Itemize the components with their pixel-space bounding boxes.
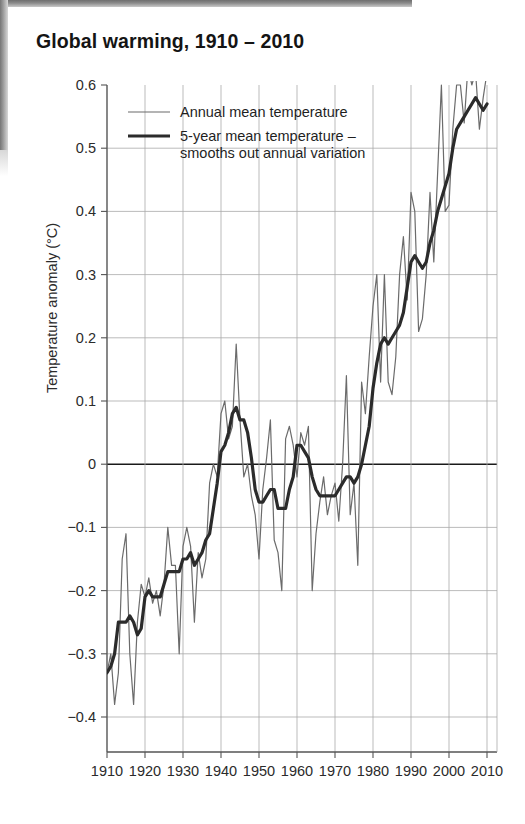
legend-label: Annual mean temperature xyxy=(180,104,348,120)
x-tick-label: 1940 xyxy=(205,763,237,779)
y-tick-label: −0.2 xyxy=(67,583,96,599)
x-tick-label: 1930 xyxy=(167,763,199,779)
grid-layer xyxy=(107,85,497,752)
x-tick-label: 1970 xyxy=(319,763,351,779)
y-tick-label: −0.1 xyxy=(67,519,96,535)
x-tick-label: 1960 xyxy=(281,763,313,779)
y-tick-label: 0.2 xyxy=(76,330,96,346)
page-root: Global warming, 1910 – 2010 Temperature … xyxy=(0,0,525,824)
x-tick-label: 1920 xyxy=(129,763,161,779)
line-chart: 0.60.50.40.30.20.10−0.1−0.2−0.3−0.4 1910… xyxy=(0,0,525,824)
y-tick-label: 0.5 xyxy=(76,140,96,156)
legend-label-line2: smooths out annual variation xyxy=(180,145,365,161)
y-tick-labels: 0.60.50.40.30.20.10−0.1−0.2−0.3−0.4 xyxy=(67,77,96,725)
y-tick-label: 0.1 xyxy=(76,393,96,409)
x-tick-label: 1950 xyxy=(243,763,275,779)
y-tick-label: −0.3 xyxy=(67,646,96,662)
x-tick-label: 1990 xyxy=(395,763,427,779)
y-tick-label: 0.6 xyxy=(76,77,96,93)
x-tick-label: 1910 xyxy=(91,763,123,779)
y-tick-label: 0.4 xyxy=(76,203,96,219)
y-tick-label: 0 xyxy=(88,456,96,472)
chart-legend: Annual mean temperature5-year mean tempe… xyxy=(128,104,365,161)
y-tick-label: 0.3 xyxy=(76,267,96,283)
x-tick-label: 2000 xyxy=(433,763,465,779)
y-tick-label: −0.4 xyxy=(67,709,96,725)
x-tick-label: 1980 xyxy=(357,763,389,779)
x-tick-labels: 1910192019301940195019601970198019902000… xyxy=(91,763,503,779)
legend-label: 5-year mean temperature – xyxy=(180,128,357,144)
x-tick-label: 2010 xyxy=(471,763,503,779)
